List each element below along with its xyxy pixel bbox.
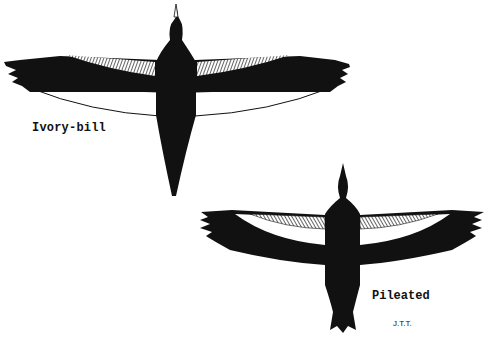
pileated-silhouette [200,163,484,333]
ivory-bill-silhouette [4,4,350,196]
artist-initials: J.T.T. [393,319,412,328]
pileated-label: Pileated [372,289,430,303]
ivory-bill-label: Ivory-bill [32,121,106,135]
